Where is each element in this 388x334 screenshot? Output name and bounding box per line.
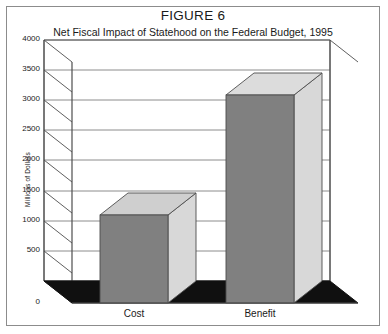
y-tick-1500: 1500 bbox=[0, 185, 40, 194]
x-tick-cost: Cost bbox=[79, 308, 189, 319]
figure-container: FIGURE 6 Net Fiscal Impact of Statehood … bbox=[0, 0, 388, 334]
y-tick-3500: 3500 bbox=[0, 64, 40, 73]
chart-plot-area: Millions of Dollars 4000 3500 3000 2500 … bbox=[0, 0, 388, 334]
x-tick-benefit: Benefit bbox=[205, 308, 315, 319]
bar-cost-front-face[interactable] bbox=[100, 215, 168, 303]
bar-benefit-side-face bbox=[294, 73, 322, 303]
chart-svg bbox=[0, 0, 388, 334]
y-tick-4000: 4000 bbox=[0, 34, 40, 43]
y-tick-2000: 2000 bbox=[0, 154, 40, 163]
y-tick-1000: 1000 bbox=[0, 215, 40, 224]
y-tick-0: 0 bbox=[0, 297, 40, 306]
y-tick-2500: 2500 bbox=[0, 124, 40, 133]
back-wall-top-right-connector bbox=[330, 40, 358, 62]
y-tick-3000: 3000 bbox=[0, 94, 40, 103]
bar-benefit-front-face[interactable] bbox=[226, 95, 294, 303]
y-tick-500: 500 bbox=[0, 245, 40, 254]
